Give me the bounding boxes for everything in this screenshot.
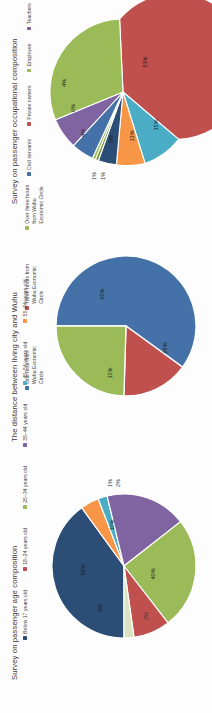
- legend-swatch-icon: [23, 636, 27, 640]
- pie-chart-age: 40% 34% 10% 2% 1% 2% 9%: [46, 482, 202, 650]
- slice-value-label: 2%: [143, 612, 149, 620]
- legend-swatch-icon: [23, 319, 27, 323]
- legend-label: Employee: [26, 43, 33, 66]
- slice-value-label: 6%: [70, 104, 76, 112]
- slice-value-label: 11%: [107, 368, 113, 379]
- legend-swatch-icon: [27, 27, 31, 31]
- chart-title-occupation: Survey on passenger occupational composi…: [10, 38, 19, 204]
- slice-value-label: 2%: [115, 479, 121, 487]
- slice-value-label: 15%: [153, 119, 159, 130]
- slice-value-label: 1%: [107, 479, 113, 487]
- chart-title-distance: The distance between living city and Wuh…: [10, 292, 19, 442]
- legend-label: 55–64 years old: [22, 279, 29, 316]
- slice-value-label: 9%: [97, 604, 103, 612]
- pie-slice[interactable]: [56, 326, 126, 396]
- slice-value-label: 13%: [129, 130, 135, 141]
- legend-item[interactable]: Private owners: [26, 85, 33, 125]
- legend-swatch-icon: [27, 122, 31, 126]
- legend-item[interactable]: Over three hours from Wuhu Economic Circ…: [24, 178, 45, 230]
- slice-value-label: 40%: [150, 568, 156, 579]
- slice-value-label: 10%: [109, 519, 115, 530]
- legend-swatch-icon: [23, 381, 27, 385]
- slice-value-label: 1%: [91, 172, 97, 180]
- chart-panel-distance: The distance between living city and Wuh…: [0, 238, 212, 476]
- legend-item[interactable]: 18–24 years old: [22, 528, 29, 571]
- slice-value-label: 51%: [142, 56, 148, 67]
- legend-label: Over three hours from Wuhu Economic Circ…: [24, 178, 45, 224]
- legend-label: 45–54 years old: [22, 342, 29, 379]
- pie-chart-occupation: 51% 4% 1% 1% 5% 13% 15% 6% 4%: [44, 6, 202, 178]
- legend-label: 25–34 years old: [22, 466, 29, 503]
- legend-label: Private owners: [26, 85, 33, 119]
- legend-age: Below 17 years old 18–24 years old 25–34…: [22, 279, 29, 640]
- slice-value-label: 29%: [162, 342, 168, 353]
- figure-page: Survey on passenger occupational composi…: [0, 0, 212, 713]
- legend-swatch-icon: [27, 69, 31, 73]
- legend-label: Teachers: [26, 3, 33, 24]
- slice-value-label: 1%: [100, 172, 106, 180]
- legend-swatch-icon: [23, 505, 27, 509]
- legend-item[interactable]: Employee: [26, 43, 33, 72]
- slice-value-label: 4%: [80, 129, 86, 137]
- legend-swatch-icon: [23, 443, 27, 447]
- pie-chart-distance: 60% 29% 11%: [50, 246, 202, 406]
- legend-occupation: Civil servants Private owners Employee T…: [26, 0, 33, 176]
- legend-item[interactable]: 35–44 years old: [22, 404, 29, 447]
- legend-item[interactable]: 55–64 years old: [22, 279, 29, 322]
- legend-item[interactable]: 45–54 years old: [22, 342, 29, 385]
- slice-value-label: 60%: [99, 288, 105, 299]
- legend-swatch-icon: [23, 567, 27, 571]
- legend-label: Below 17 years old: [22, 590, 29, 634]
- legend-swatch-icon: [25, 226, 29, 230]
- slice-value-label: 5%: [108, 135, 114, 143]
- legend-label: Civil servants: [26, 139, 33, 170]
- legend-item[interactable]: Teachers: [26, 3, 33, 30]
- legend-label: 18–24 years old: [22, 528, 29, 565]
- legend-item[interactable]: Civil servants: [26, 139, 33, 176]
- legend-item[interactable]: Below 17 years old: [22, 590, 29, 640]
- legend-item[interactable]: 25–34 years old: [22, 466, 29, 509]
- slice-value-label: 34%: [80, 564, 86, 575]
- slice-value-label: 4%: [61, 79, 67, 87]
- chart-panel-age: Survey on passenger age composition Belo…: [0, 476, 212, 713]
- legend-label: 35–44 years old: [22, 404, 29, 441]
- legend-swatch-icon: [27, 172, 31, 176]
- chart-title-age: Survey on passenger age composition: [10, 546, 19, 680]
